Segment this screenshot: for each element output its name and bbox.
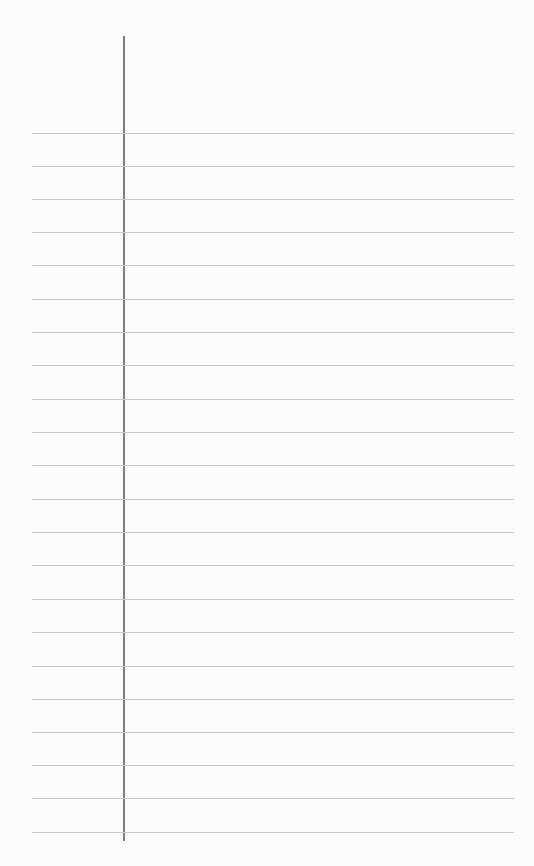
- ruled-line: [32, 465, 514, 466]
- ruled-line: [32, 632, 514, 633]
- margin-line: [123, 36, 125, 841]
- ruled-line: [32, 365, 514, 366]
- ruled-line: [32, 832, 514, 833]
- ruled-line: [32, 565, 514, 566]
- ruled-line: [32, 599, 514, 600]
- ruled-line: [32, 166, 514, 167]
- ruled-line: [32, 666, 514, 667]
- ruled-line: [32, 232, 514, 233]
- ruled-line: [32, 532, 514, 533]
- ruled-line: [32, 399, 514, 400]
- ruled-line: [32, 765, 514, 766]
- ruled-line: [32, 299, 514, 300]
- ruled-line: [32, 199, 514, 200]
- ruled-line: [32, 133, 514, 134]
- ruled-line: [32, 732, 514, 733]
- ruled-line: [32, 432, 514, 433]
- ruled-line: [32, 265, 514, 266]
- ruled-line: [32, 699, 514, 700]
- ruled-line: [32, 332, 514, 333]
- notebook-page: [0, 0, 534, 866]
- ruled-line: [32, 499, 514, 500]
- ruled-line: [32, 798, 514, 799]
